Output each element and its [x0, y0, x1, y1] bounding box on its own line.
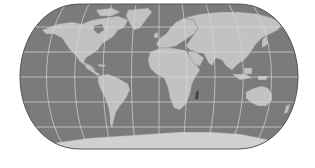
world-map	[0, 0, 315, 168]
new-guinea	[258, 76, 268, 80]
borneo	[244, 68, 252, 74]
